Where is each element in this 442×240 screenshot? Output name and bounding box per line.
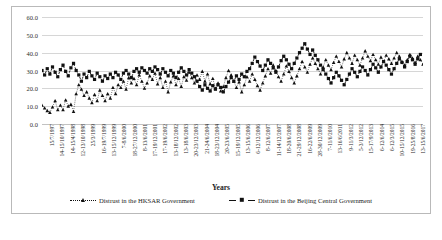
x-axis-tick-label: 13-15/6/2006 (245, 124, 251, 154)
y-axis-tick-label: 0.0 (30, 121, 38, 128)
data-point-marker (237, 78, 240, 81)
data-point-marker (109, 96, 113, 99)
data-point-marker (253, 56, 256, 59)
data-point-marker (151, 70, 154, 73)
x-axis-tick-label: 14-15/4/1998 (70, 124, 76, 154)
data-point-marker (56, 108, 60, 111)
data-point-marker (156, 68, 159, 71)
data-point-marker (85, 76, 88, 79)
data-point-marker (364, 69, 367, 72)
data-point-marker (277, 65, 280, 68)
data-point-marker (332, 61, 336, 64)
data-point-marker (314, 54, 317, 57)
x-axis-tick-label: 20-23/6/2005 (224, 124, 230, 154)
data-point-marker (374, 58, 378, 61)
data-point-marker (69, 66, 72, 69)
data-point-marker (361, 65, 364, 68)
data-point-marker (179, 85, 183, 88)
data-point-marker (340, 65, 344, 68)
data-point-marker (303, 42, 306, 45)
data-point-marker (403, 65, 406, 68)
data-point-marker (103, 99, 107, 102)
x-axis-tick-label: 25/3/1999 (90, 124, 96, 146)
x-axis-tick-label: 17-19/6/2002 (162, 124, 168, 154)
data-point-marker (332, 76, 335, 79)
data-point-marker (306, 48, 309, 51)
data-point-marker (42, 103, 44, 106)
data-point-marker (240, 90, 244, 93)
data-point-marker (366, 73, 369, 76)
data-point-marker (322, 68, 325, 71)
x-axis-title: Years (12, 183, 430, 192)
data-point-marker (356, 58, 360, 61)
data-point-marker (51, 65, 54, 68)
data-point-marker (313, 62, 317, 65)
data-point-marker (329, 81, 332, 84)
data-point-marker (64, 70, 67, 73)
legend-item-beijing: Distrust in the Beijing Central Governme… (229, 196, 372, 204)
x-axis-tick-label: 20-23/12/2003 (193, 124, 199, 156)
data-point-marker (74, 92, 78, 95)
legend-label: Distrust in the HKSAR Government (99, 197, 195, 204)
legend-marker-triangle-icon (70, 196, 96, 204)
data-point-marker (200, 70, 204, 73)
data-point-marker (111, 76, 114, 79)
data-point-marker (356, 75, 359, 78)
data-point-marker (358, 70, 361, 73)
y-axis-tick-label: 30.0 (26, 67, 38, 74)
data-point-marker (398, 54, 402, 57)
data-point-marker (256, 60, 259, 63)
data-point-marker (390, 62, 394, 65)
data-point-marker (96, 72, 99, 75)
data-point-marker (290, 76, 294, 79)
data-point-marker (164, 79, 168, 82)
data-point-marker (224, 76, 228, 79)
data-point-marker (363, 49, 367, 52)
data-point-marker (369, 68, 372, 71)
data-point-marker (377, 71, 380, 74)
data-point-marker (185, 79, 189, 82)
x-axis-tick-label: 6-12/3/2015 (389, 124, 395, 151)
data-point-marker (345, 78, 348, 81)
data-point-marker (243, 83, 247, 86)
data-point-marker (335, 71, 338, 74)
data-point-marker (319, 72, 323, 75)
x-axis-tick-label: 8-13/6/2001 (142, 124, 148, 151)
data-point-marker (72, 110, 76, 113)
data-point-marker (61, 108, 65, 111)
data-point-marker (374, 66, 377, 69)
data-point-marker (53, 99, 57, 102)
data-point-marker (101, 80, 104, 83)
data-point-marker (166, 90, 170, 93)
data-point-marker (87, 96, 91, 99)
data-point-marker (198, 85, 201, 88)
data-point-marker (406, 60, 409, 63)
x-axis-tick-label: 16-22/6/2009 (307, 124, 313, 154)
data-point-marker (101, 94, 105, 97)
data-point-marker (114, 92, 118, 95)
data-point-marker (169, 80, 173, 83)
data-point-marker (361, 56, 365, 59)
data-point-marker (130, 76, 133, 79)
data-point-marker (340, 79, 343, 82)
data-point-marker (353, 54, 357, 57)
data-point-marker (261, 69, 264, 72)
x-axis-tick-label: 13-18/12/2002 (173, 124, 179, 156)
data-point-marker (419, 53, 422, 56)
data-point-marker (324, 72, 327, 75)
data-point-marker (151, 78, 155, 81)
data-point-marker (124, 87, 128, 90)
data-point-marker (337, 74, 340, 77)
data-point-marker (416, 57, 419, 60)
data-point-marker (193, 75, 196, 78)
legend-item-hksar: Distrust in the HKSAR Government (70, 196, 195, 204)
data-point-marker (250, 72, 254, 75)
data-point-marker (119, 78, 122, 81)
data-point-marker (98, 88, 102, 91)
data-point-marker (274, 71, 277, 74)
data-point-marker (64, 98, 68, 101)
x-axis-tick-label: 28-30/12/2009 (317, 124, 323, 156)
data-point-marker (180, 66, 183, 69)
x-axis-tick-label: 9-11/3/2012 (348, 124, 354, 151)
data-point-marker (116, 83, 120, 86)
